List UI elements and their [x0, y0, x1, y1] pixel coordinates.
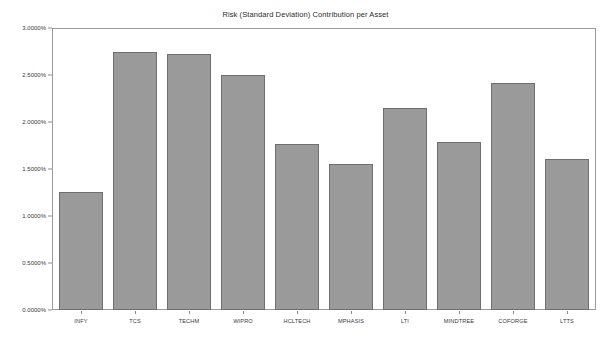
bar-hcltech[interactable] [275, 144, 318, 310]
x-axis-tick-mark [297, 311, 298, 314]
x-axis-tick-label: MINDTREE [432, 318, 486, 324]
x-axis-tick-mark [81, 311, 82, 314]
x-axis: INFYTCSTECHMWIPROHCLTECHMPHASISLTIMINDTR… [52, 311, 596, 333]
bar-slot [162, 28, 216, 310]
bar-mphasis[interactable] [329, 164, 372, 310]
bar-coforge[interactable] [491, 83, 534, 310]
bar-slot [378, 28, 432, 310]
y-axis-tick-label: 0.5000% [22, 260, 46, 266]
bar-chart: Risk (Standard Deviation) Contribution p… [0, 0, 611, 346]
x-axis-slot: MINDTREE [432, 311, 486, 333]
x-axis-tick-label: WIPRO [216, 318, 270, 324]
x-axis-tick-mark [351, 311, 352, 314]
x-axis-tick-mark [567, 311, 568, 314]
x-axis-slot: MPHASIS [324, 311, 378, 333]
x-axis-slot: TECHM [162, 311, 216, 333]
y-axis-tick-label: 0.0000% [22, 307, 46, 313]
bars-container [52, 28, 596, 310]
y-axis-tick-label: 1.0000% [22, 213, 46, 219]
bar-slot [270, 28, 324, 310]
bar-lti[interactable] [383, 108, 426, 310]
y-axis-tick-label: 3.0000% [22, 25, 46, 31]
x-axis-slot: TCS [108, 311, 162, 333]
bar-techm[interactable] [167, 54, 210, 310]
x-axis-slot: LTI [378, 311, 432, 333]
x-axis-slot: HCLTECH [270, 311, 324, 333]
x-axis-tick-mark [243, 311, 244, 314]
bar-slot [108, 28, 162, 310]
x-axis-tick-mark [189, 311, 190, 314]
y-axis: 0.0000%0.5000%1.0000%1.5000%2.0000%2.500… [0, 28, 52, 310]
x-axis-tick-label: COFORGE [486, 318, 540, 324]
bar-ltts[interactable] [545, 159, 588, 310]
x-axis-slot: WIPRO [216, 311, 270, 333]
x-axis-tick-label: TECHM [162, 318, 216, 324]
y-axis-tick-label: 2.0000% [22, 119, 46, 125]
x-axis-tick-label: HCLTECH [270, 318, 324, 324]
bar-slot [432, 28, 486, 310]
x-axis-tick-mark [405, 311, 406, 314]
bar-slot [324, 28, 378, 310]
x-axis-slot: LTTS [540, 311, 594, 333]
bar-slot [216, 28, 270, 310]
bar-infy[interactable] [59, 192, 102, 310]
x-axis-slot: COFORGE [486, 311, 540, 333]
x-axis-tick-mark [513, 311, 514, 314]
x-axis-tick-label: LTI [378, 318, 432, 324]
x-axis-slot: INFY [54, 311, 108, 333]
x-axis-tick-mark [135, 311, 136, 314]
bar-tcs[interactable] [113, 52, 156, 310]
bar-mindtree[interactable] [437, 142, 480, 310]
y-axis-tick-label: 1.5000% [22, 166, 46, 172]
x-axis-tick-label: INFY [54, 318, 108, 324]
bar-slot [54, 28, 108, 310]
x-axis-tick-mark [459, 311, 460, 314]
x-axis-tick-label: TCS [108, 318, 162, 324]
bar-wipro[interactable] [221, 75, 264, 310]
y-axis-tick-label: 2.5000% [22, 72, 46, 78]
bar-slot [540, 28, 594, 310]
x-axis-tick-label: MPHASIS [324, 318, 378, 324]
bar-slot [486, 28, 540, 310]
x-axis-tick-label: LTTS [540, 318, 594, 324]
chart-title: Risk (Standard Deviation) Contribution p… [0, 10, 611, 19]
